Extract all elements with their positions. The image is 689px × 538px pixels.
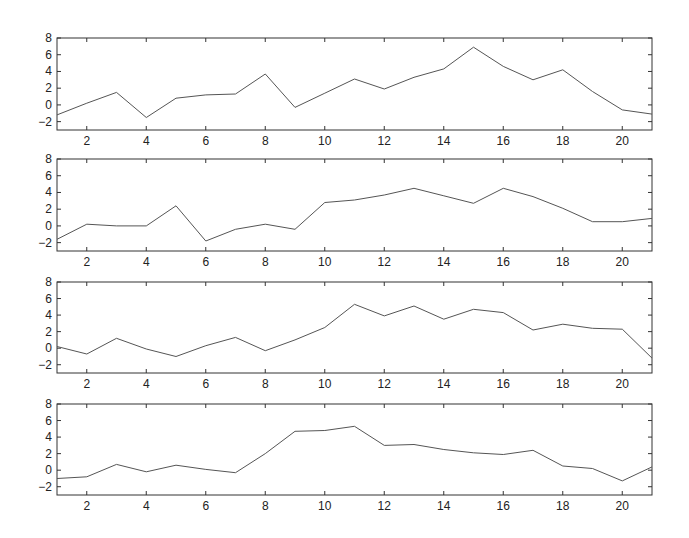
x-tick-label: 6 — [202, 134, 209, 148]
series-line — [57, 47, 652, 117]
x-tick-label: 18 — [556, 134, 570, 148]
x-tick-label: 12 — [378, 255, 392, 269]
x-tick-label: 10 — [318, 377, 332, 391]
x-tick-label: 6 — [202, 499, 209, 513]
y-tick-label: 0 — [45, 341, 52, 355]
x-tick-label: 10 — [318, 499, 332, 513]
subplot-4: 2468101214161820−202468 — [38, 397, 652, 513]
y-tick-label: 4 — [45, 185, 52, 199]
series-line — [57, 426, 652, 481]
subplot-1: 2468101214161820−202468 — [38, 31, 652, 148]
x-tick-label: 18 — [556, 377, 570, 391]
y-tick-label: −2 — [38, 480, 52, 494]
x-tick-label: 16 — [497, 499, 511, 513]
y-tick-label: 2 — [45, 447, 52, 461]
x-tick-label: 16 — [497, 377, 511, 391]
x-tick-label: 18 — [556, 255, 570, 269]
x-tick-label: 2 — [83, 255, 90, 269]
y-tick-label: 4 — [45, 64, 52, 78]
y-tick-label: −2 — [38, 236, 52, 250]
y-tick-label: 2 — [45, 202, 52, 216]
y-tick-label: 6 — [45, 48, 52, 62]
x-tick-label: 14 — [437, 255, 451, 269]
x-tick-label: 12 — [378, 377, 392, 391]
y-tick-label: 0 — [45, 219, 52, 233]
series-line — [57, 188, 652, 241]
x-tick-label: 8 — [262, 499, 269, 513]
x-tick-label: 4 — [143, 255, 150, 269]
axes-frame — [57, 404, 652, 495]
x-tick-label: 20 — [616, 255, 630, 269]
x-tick-label: 14 — [437, 499, 451, 513]
y-tick-label: 8 — [45, 397, 52, 411]
y-tick-label: 2 — [45, 325, 52, 339]
x-tick-label: 4 — [143, 499, 150, 513]
x-tick-label: 10 — [318, 134, 332, 148]
y-tick-label: 0 — [45, 463, 52, 477]
chart-figure: 2468101214161820−2024682468101214161820−… — [0, 0, 689, 538]
y-tick-label: 0 — [45, 98, 52, 112]
x-tick-label: 2 — [83, 134, 90, 148]
x-tick-label: 6 — [202, 255, 209, 269]
x-tick-label: 20 — [616, 377, 630, 391]
x-tick-label: 18 — [556, 499, 570, 513]
x-tick-label: 12 — [378, 499, 392, 513]
x-tick-label: 8 — [262, 255, 269, 269]
x-tick-label: 4 — [143, 134, 150, 148]
x-tick-label: 2 — [83, 499, 90, 513]
y-tick-label: 4 — [45, 430, 52, 444]
subplot-2: 2468101214161820−202468 — [38, 152, 652, 269]
y-tick-label: 6 — [45, 414, 52, 428]
y-tick-label: −2 — [38, 358, 52, 372]
x-tick-label: 12 — [378, 134, 392, 148]
y-tick-label: 6 — [45, 292, 52, 306]
x-tick-label: 4 — [143, 377, 150, 391]
y-tick-label: 6 — [45, 169, 52, 183]
x-tick-label: 20 — [616, 134, 630, 148]
axes-frame — [57, 38, 652, 130]
x-tick-label: 14 — [437, 134, 451, 148]
x-tick-label: 20 — [616, 499, 630, 513]
y-tick-label: 8 — [45, 31, 52, 45]
x-tick-label: 2 — [83, 377, 90, 391]
y-tick-label: −2 — [38, 115, 52, 129]
x-tick-label: 10 — [318, 255, 332, 269]
x-tick-label: 8 — [262, 377, 269, 391]
y-tick-label: 2 — [45, 81, 52, 95]
axes-frame — [57, 282, 652, 373]
x-tick-label: 8 — [262, 134, 269, 148]
y-tick-label: 4 — [45, 308, 52, 322]
subplot-3: 2468101214161820−202468 — [38, 275, 652, 391]
x-tick-label: 16 — [497, 255, 511, 269]
x-tick-label: 14 — [437, 377, 451, 391]
y-tick-label: 8 — [45, 152, 52, 166]
x-tick-label: 6 — [202, 377, 209, 391]
y-tick-label: 8 — [45, 275, 52, 289]
x-tick-label: 16 — [497, 134, 511, 148]
series-line — [57, 304, 652, 358]
axes-frame — [57, 159, 652, 251]
